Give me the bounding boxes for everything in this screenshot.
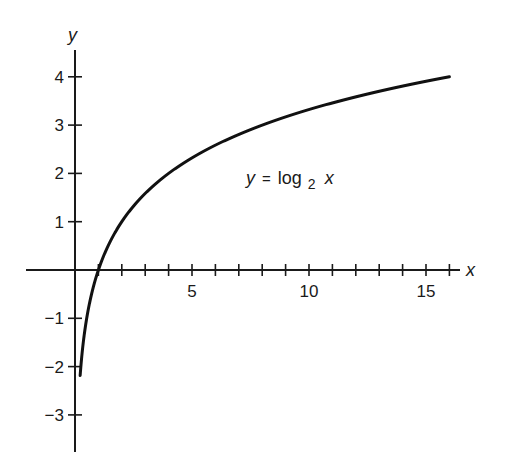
annotation-arg: x [324,168,335,188]
x-axis: 51015 x [26,260,476,301]
annotation-equals: = [262,170,271,187]
y-axis-label: y [66,25,78,45]
annotation-subscript: 2 [308,176,316,192]
y-axis: 4321−1−2−3 y [45,25,82,452]
y-tick-label: 4 [55,68,64,87]
x-tick-label: 10 [300,282,319,301]
y-tick-labels: 4321−1−2−3 [45,68,64,425]
log2-chart: 51015 x 4321−1−2−3 y y = log 2 x [0,0,505,475]
y-tick-label: 1 [55,213,64,232]
y-tick-label: 3 [55,116,64,135]
y-tick-label: −2 [45,358,64,377]
annotation-lhs: y [244,168,256,188]
y-tick-label: 2 [55,164,64,183]
log2-curve [80,77,449,376]
annotation-function: log [278,168,302,188]
x-tick-label: 5 [187,282,196,301]
y-tick-label: −1 [45,309,64,328]
x-tick-label: 15 [417,282,436,301]
x-tick-labels: 51015 [187,282,435,301]
curve-annotation: y = log 2 x [244,168,335,193]
x-axis-label: x [465,260,476,280]
y-tick-label: −3 [45,406,64,425]
